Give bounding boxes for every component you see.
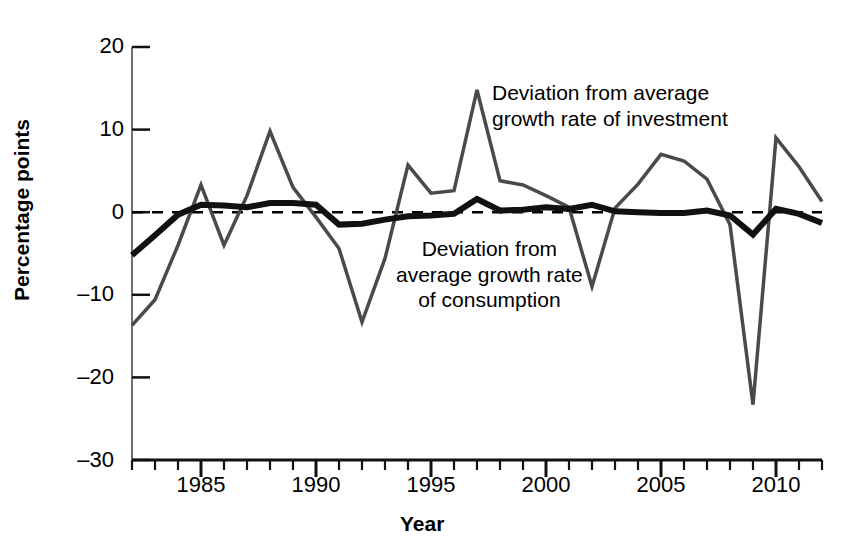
x-tick-label-2010: 2010 bbox=[736, 472, 816, 498]
x-tick-label-1990: 1990 bbox=[276, 472, 356, 498]
y-tick-label-20: 20 bbox=[62, 33, 124, 59]
chart-figure: Percentage points Year 20 10 0 –10 –20 –… bbox=[0, 0, 856, 551]
y-tick-label-m20: –20 bbox=[52, 364, 114, 390]
x-tick-label-2000: 2000 bbox=[506, 472, 586, 498]
y-tick-label-m30: –30 bbox=[52, 447, 114, 473]
annotation-investment: Deviation from average growth rate of in… bbox=[492, 80, 728, 131]
x-tick-label-1995: 1995 bbox=[391, 472, 471, 498]
y-tick-label-10: 10 bbox=[62, 116, 124, 142]
x-axis-label: Year bbox=[400, 512, 444, 536]
x-tick-label-2005: 2005 bbox=[621, 472, 701, 498]
y-axis-label: Percentage points bbox=[10, 110, 34, 310]
annotation-consumption: Deviation from average growth rate of co… bbox=[396, 236, 583, 313]
y-tick-label-0: 0 bbox=[62, 199, 124, 225]
x-tick-label-1985: 1985 bbox=[161, 472, 241, 498]
y-tick-label-m10: –10 bbox=[52, 281, 114, 307]
